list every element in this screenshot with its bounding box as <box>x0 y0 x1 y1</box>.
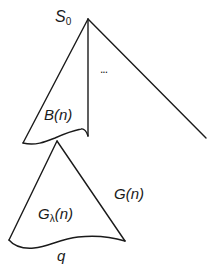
q-label: q <box>57 248 65 263</box>
ellipsis: ... <box>100 62 107 76</box>
g-subtree-bottom <box>9 236 125 248</box>
root-label: S0 <box>55 9 71 27</box>
g-lambda-rest: (n) <box>55 205 73 222</box>
g-lambda-main: G <box>38 205 50 222</box>
tree-diagram: S0 ... B(n) G(n) Gλ(n) q <box>0 0 215 277</box>
root-label-sub: 0 <box>66 16 72 27</box>
root-label-main: S <box>55 8 66 25</box>
b-subtree-left-edge <box>23 19 88 143</box>
b-subtree-bottom <box>23 129 88 144</box>
b-subtree-label: B(n) <box>44 107 72 122</box>
diagram-lines <box>0 0 215 277</box>
g-subtree-label: G(n) <box>114 186 144 201</box>
outer-tree-right-edge <box>88 19 206 138</box>
g-lambda-label: Gλ(n) <box>38 206 73 224</box>
g-subtree-left-edge <box>9 141 57 240</box>
